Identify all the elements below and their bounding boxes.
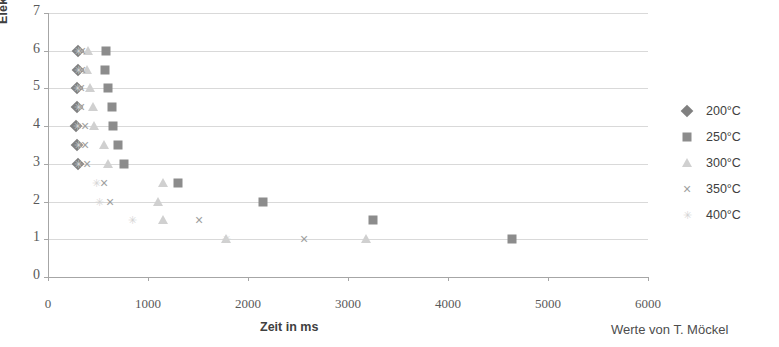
y-axis-line — [48, 13, 49, 277]
data-point — [508, 235, 517, 244]
x-axis-title: Zeit in ms — [260, 320, 318, 334]
y-axis-tick-label: 4 — [14, 116, 40, 132]
x-axis-tick-label: 5000 — [518, 296, 578, 312]
data-point — [89, 121, 99, 130]
y-axis-tick-label: 3 — [14, 154, 40, 170]
scatter-chart: 012345670100020003000400050006000 Elektr… — [0, 0, 779, 347]
data-point — [102, 46, 111, 55]
data-point — [105, 196, 116, 207]
plot-area: 012345670100020003000400050006000 — [48, 13, 648, 277]
data-point — [72, 121, 83, 132]
y-axis-tick-label: 6 — [14, 41, 40, 57]
legend-item-label: 400°C — [706, 208, 741, 222]
data-point — [103, 159, 113, 168]
x-axis-tick-label: 6000 — [618, 296, 678, 312]
legend-item-200C[interactable]: 200°C — [678, 98, 778, 124]
y-axis-tick-label: 0 — [14, 267, 40, 283]
data-point — [120, 159, 129, 168]
gridline-horizontal — [48, 13, 648, 14]
y-axis-tick-label: 1 — [14, 229, 40, 245]
data-point — [94, 196, 105, 207]
data-point — [361, 234, 371, 243]
x-axis-tick-label: 4000 — [418, 296, 478, 312]
data-point — [88, 102, 98, 111]
gridline-horizontal — [48, 51, 648, 52]
data-point — [91, 177, 102, 188]
gridline-horizontal — [48, 126, 648, 127]
data-point — [85, 83, 95, 92]
y-axis-tick-label: 2 — [14, 192, 40, 208]
data-point — [369, 216, 378, 225]
data-point — [101, 65, 110, 74]
data-point — [104, 84, 113, 93]
legend-item-400C[interactable]: 400°C — [678, 202, 778, 228]
x-axis-tick-label: 0 — [18, 296, 78, 312]
data-point — [259, 197, 268, 206]
legend-item-label: 250°C — [706, 130, 741, 144]
legend-item-label: 200°C — [706, 104, 741, 118]
data-point — [108, 103, 117, 112]
legend-swatch — [678, 208, 696, 222]
legend-item-300C[interactable]: 300°C — [678, 150, 778, 176]
y-axis-tick-label: 5 — [14, 78, 40, 94]
x-marker-icon — [682, 184, 693, 195]
data-point — [73, 140, 84, 151]
legend-item-350C[interactable]: 350°C — [678, 176, 778, 202]
gridline-horizontal — [48, 202, 648, 203]
data-point — [72, 83, 83, 94]
footnote-text: Werte von T. Möckel — [611, 322, 728, 337]
legend-swatch — [678, 156, 696, 170]
data-point — [194, 215, 205, 226]
data-point — [174, 178, 183, 187]
legend-swatch — [678, 130, 696, 144]
data-point — [221, 234, 232, 245]
legend: 200°C250°C300°C350°C400°C — [678, 98, 778, 228]
x-axis-tick — [648, 277, 649, 281]
data-point — [99, 140, 109, 149]
gridline-horizontal — [48, 88, 648, 89]
y-axis-tick-label: 7 — [14, 3, 40, 19]
data-point — [73, 102, 84, 113]
gridline-horizontal — [48, 239, 648, 240]
legend-item-250C[interactable]: 250°C — [678, 124, 778, 150]
data-point — [158, 178, 168, 187]
x-axis-tick-label: 3000 — [318, 296, 378, 312]
star-marker-icon — [682, 210, 693, 221]
data-point — [158, 215, 168, 224]
x-axis-line — [48, 277, 648, 278]
data-point — [127, 215, 138, 226]
gridline-horizontal — [48, 164, 648, 165]
data-point — [73, 158, 84, 169]
data-point — [299, 234, 310, 245]
data-point — [109, 122, 118, 131]
x-axis-tick-label: 2000 — [218, 296, 278, 312]
y-axis-title: Elektrodenkraft in kN — [0, 0, 10, 50]
data-point — [73, 45, 84, 56]
legend-swatch — [678, 104, 696, 118]
triangle-marker-icon — [682, 158, 692, 167]
diamond-marker-icon — [681, 105, 694, 118]
x-axis-tick-label: 1000 — [118, 296, 178, 312]
legend-swatch — [678, 182, 696, 196]
data-point — [73, 64, 84, 75]
legend-item-label: 300°C — [706, 156, 741, 170]
legend-item-label: 350°C — [706, 182, 741, 196]
data-point — [153, 197, 163, 206]
data-point — [114, 141, 123, 150]
square-marker-icon — [683, 133, 692, 142]
